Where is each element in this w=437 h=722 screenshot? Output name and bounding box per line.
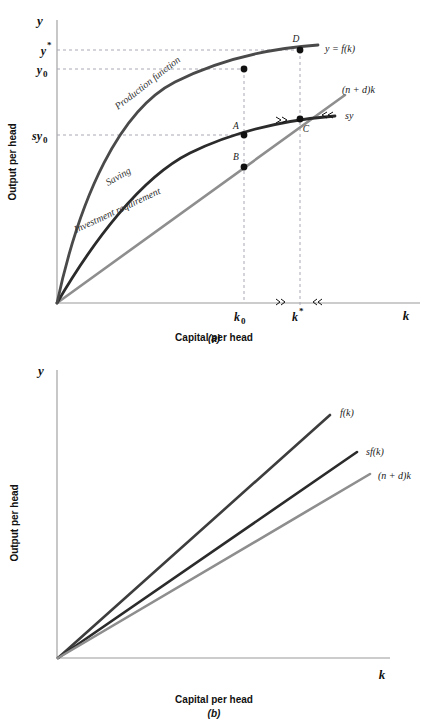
x-tick-k-star-label: k	[292, 310, 298, 324]
curve-investment-requirement	[57, 95, 345, 303]
panel-b-container: y k Output per head Capital per head f(k…	[0, 345, 437, 722]
panel-a-caption-svg: (a)	[0, 329, 437, 345]
axis-arrow-from-right	[313, 299, 322, 305]
x-tick-k-star-sup: *	[299, 306, 304, 316]
panel-b-chart: y k Output per head Capital per head f(k…	[0, 345, 437, 722]
y-tick-y-star: y *	[39, 40, 52, 58]
panel-b-y-axis-symbol: y	[36, 363, 44, 378]
line-production-function	[58, 415, 330, 658]
y-tick-y0-sub: 0	[43, 69, 48, 79]
y-tick-sy0-label: sy	[31, 129, 43, 143]
y-tick-y0-label: y	[35, 63, 43, 77]
y-tick-y0: y 0	[35, 63, 48, 79]
point-label-B: B	[233, 152, 239, 162]
x-tick-k0-label: k	[234, 310, 240, 324]
label-equation-production-function: y = f(k)	[324, 43, 356, 55]
panel-a-x-axis-symbol: k	[403, 308, 410, 323]
point-A	[241, 132, 248, 139]
curve-production-function	[57, 45, 318, 303]
axis-arrow-from-left	[276, 299, 285, 305]
x-tick-k0: k 0	[234, 310, 246, 326]
point-label-C: C	[303, 124, 310, 134]
panel-a-y-axis-title: Output per head	[7, 123, 18, 200]
point-label-D: D	[292, 34, 300, 44]
panel-b-x-axis-symbol: k	[379, 667, 386, 682]
panel-b-y-axis-title: Output per head	[9, 484, 20, 561]
panel-b-caption: (b)	[208, 708, 221, 719]
panel-a-caption: (a)	[208, 333, 221, 344]
x-tick-k0-sub: 0	[241, 316, 246, 326]
line-investment-requirement	[58, 474, 370, 658]
point-y0-on-production	[241, 66, 248, 73]
panel-b-caption-svg: (b)	[0, 703, 437, 721]
y-tick-y-star-sup: *	[47, 40, 52, 50]
y-tick-sy0: sy 0	[31, 129, 48, 145]
point-C	[297, 116, 304, 123]
curve-saving	[57, 116, 335, 303]
label-equation-investment-requirement: (n + d)k	[342, 84, 375, 96]
label-saving: Saving	[104, 165, 133, 188]
label-equation-sf-of-k: sf(k)	[366, 446, 384, 458]
panel-a-container: y k Output per head Capital per head Pro…	[0, 0, 437, 345]
point-B	[241, 164, 248, 171]
y-tick-sy0-sub: 0	[43, 135, 48, 145]
line-saving	[58, 452, 357, 658]
y-tick-y-star-label: y	[39, 44, 47, 58]
label-equation-f-of-k: f(k)	[340, 407, 355, 419]
panel-a-y-axis-symbol: y	[35, 13, 43, 28]
point-label-A: A	[232, 121, 239, 131]
label-equation-saving: sy	[345, 110, 354, 121]
label-investment-requirement: Investment requirement	[71, 185, 162, 235]
point-D	[297, 47, 304, 54]
label-equation-n-plus-d-k: (n + d)k	[378, 470, 411, 482]
panel-a-chart: y k Output per head Capital per head Pro…	[0, 0, 437, 345]
x-tick-k-star: k *	[292, 306, 304, 324]
